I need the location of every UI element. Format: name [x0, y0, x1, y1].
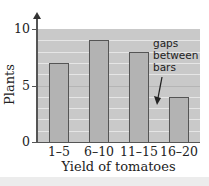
- annotation-line-1: gaps: [153, 37, 199, 49]
- xtick-label-11-15: 11–15: [117, 145, 161, 159]
- xtick-label-1-5: 1–5: [37, 145, 81, 159]
- bar-11-15: [129, 52, 149, 143]
- bar-6-10: [89, 40, 109, 143]
- xtick-label-16-20: 16–20: [157, 145, 201, 159]
- annotation-arrow-icon: [150, 76, 166, 106]
- xtick-label-6-10: 6–10: [77, 145, 121, 159]
- ytick-0: [32, 142, 37, 143]
- annotation-line-3: bars: [153, 61, 199, 73]
- ytick-label-0: 0: [10, 136, 30, 148]
- ytick-5: [32, 86, 37, 87]
- bar-1-5: [49, 63, 69, 143]
- annotation-line-2: between: [153, 49, 199, 61]
- x-axis: [33, 142, 200, 143]
- y-axis-label: Plants: [3, 65, 17, 105]
- ytick-10: [32, 29, 37, 30]
- gaps-annotation: gaps between bars: [153, 37, 199, 73]
- bar-chart: 10 5 0 1–5 6–10 11–15 16–20 Yield of tom…: [0, 0, 209, 186]
- bar-16-20: [169, 97, 189, 143]
- y-axis: [36, 16, 38, 143]
- ytick-label-10: 10: [10, 23, 30, 35]
- x-axis-label: Yield of tomatoes: [37, 160, 200, 174]
- y-axis-arrow-icon: [33, 12, 41, 19]
- bottom-strip: [0, 177, 209, 186]
